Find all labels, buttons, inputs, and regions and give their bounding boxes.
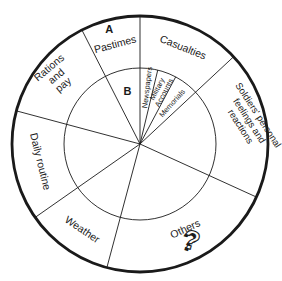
sector-label-casualties: Casualties (158, 32, 208, 61)
region-marker-a: A (105, 23, 113, 35)
region-marker-b: B (123, 85, 131, 97)
sector-label-pastimes: Pastimes (93, 32, 138, 55)
figure-page: CasualtiesSoldiers' personalfeelings and… (0, 0, 282, 281)
sector-label-daily-routine: Daily routine (28, 132, 54, 192)
topics-pie-chart: CasualtiesSoldiers' personalfeelings and… (0, 0, 282, 281)
sector-label-soldiers-personal-feelings-and-reactions: Soldiers' personalfeelings andreactions (216, 80, 282, 161)
sector-boundary-others (140, 144, 256, 197)
sector-label-rations-and-pay: Rationsandpay (31, 51, 80, 100)
sector-boundary-weather (107, 144, 140, 268)
sector-label-weather: Weather (63, 213, 103, 245)
